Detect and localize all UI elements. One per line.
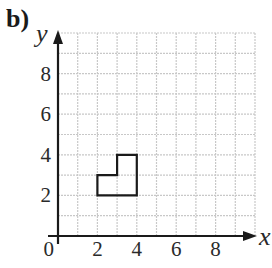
- x-tick-label: 8: [210, 237, 221, 261]
- x-tick-label: 4: [132, 237, 143, 261]
- y-axis-arrow-icon: [53, 30, 63, 44]
- x-tick-label: 6: [171, 237, 182, 261]
- grid-lines: [58, 33, 255, 236]
- y-tick-label: 6: [41, 102, 52, 126]
- origin-label: 0: [44, 237, 55, 261]
- y-tick-label: 2: [41, 183, 52, 207]
- axes: [48, 30, 257, 244]
- y-tick-label: 4: [41, 143, 52, 167]
- part-label: b): [6, 4, 29, 34]
- x-tick-label: 2: [92, 237, 103, 261]
- coordinate-grid: 246824680xy: [0, 0, 272, 268]
- y-tick-label: 8: [41, 62, 52, 86]
- y-axis-label: y: [33, 19, 48, 48]
- x-axis-label: x: [258, 222, 271, 251]
- coordinate-diagram: b) 246824680xy: [0, 0, 272, 268]
